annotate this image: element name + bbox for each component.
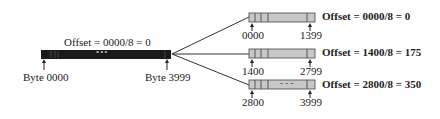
fragment-3-offset: Offset = 2800/8 = 350 — [322, 78, 421, 90]
fragment-3-start: 2800 — [242, 96, 264, 108]
end-byte-label: Byte 3999 — [145, 71, 191, 83]
fragment-1-offset: Offset = 0000/8 = 0 — [322, 10, 410, 22]
fragment-1-end: 1399 — [300, 29, 322, 41]
start-byte-label: Byte 0000 — [23, 71, 69, 83]
fragment-1-bar — [249, 13, 315, 22]
fragment-1-start: 0000 — [242, 29, 264, 41]
fragment-2-offset: Offset = 1400/8 = 175 — [322, 46, 421, 58]
fragment-2-bar — [249, 49, 315, 58]
arrow-icon — [165, 59, 169, 70]
fragment-3-ellipsis: - - - — [280, 78, 294, 88]
fragment-2-start: 1400 — [242, 65, 264, 77]
fragment-3-end: 3999 — [300, 96, 322, 108]
fragment-2-end: 2799 — [300, 65, 322, 77]
arrow-icon — [42, 59, 46, 70]
ellipsis: ••• — [96, 47, 108, 57]
